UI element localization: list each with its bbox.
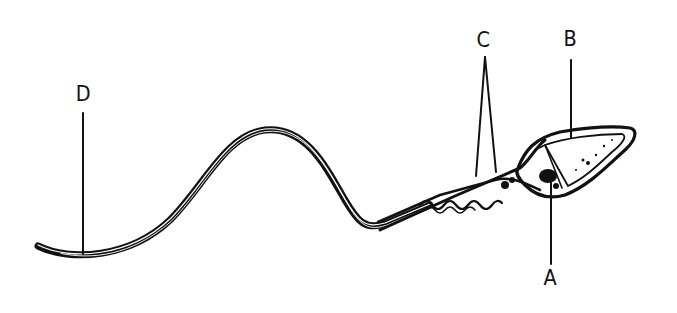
label-d: D [76,84,91,105]
label-b: B [564,29,577,50]
label-c: C [477,30,490,51]
tail-flagellum [38,129,431,256]
label-a: A [544,268,557,289]
leader-lines-c [476,57,496,176]
sperm-cell-diagram: D C B A [0,0,677,313]
